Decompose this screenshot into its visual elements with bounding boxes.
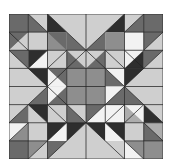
quilt-patch bbox=[144, 14, 163, 32]
quilt-patch bbox=[125, 123, 144, 141]
quilt-block bbox=[9, 14, 163, 159]
quilt-patch bbox=[28, 123, 47, 141]
quilt-patch bbox=[105, 32, 124, 50]
quilt-patch bbox=[28, 32, 47, 50]
quilt-patch bbox=[144, 141, 163, 159]
quilt-patch bbox=[125, 32, 144, 50]
quilt-patch bbox=[9, 14, 28, 32]
quilt-patch bbox=[9, 141, 28, 159]
quilt-pattern-graphic bbox=[9, 14, 163, 159]
